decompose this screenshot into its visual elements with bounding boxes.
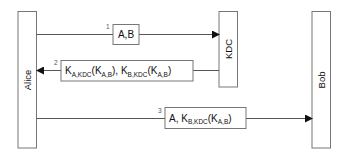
message-1: 1 A,B	[37, 23, 220, 45]
message-3: 3 A, KB,KDC(KA,B)	[37, 107, 313, 129]
step-number-1: 1	[106, 23, 110, 30]
sequence-diagram: Alice KDC Bob 1 A,B 2 KA,KDC(KA,B), KB,K…	[0, 0, 350, 156]
actor-bob: Bob	[312, 12, 331, 149]
step-number-3: 3	[158, 107, 162, 114]
actor-bob-label: Bob	[316, 72, 327, 89]
actor-alice: Alice	[18, 12, 37, 149]
message-2: 2 KA,KDC(KA,B), KB,KDC(KA,B)	[37, 59, 219, 81]
step-number-2: 2	[54, 59, 58, 66]
message-1-label: A,B	[118, 29, 134, 40]
actor-alice-label: Alice	[22, 70, 33, 91]
actor-kdc: KDC	[219, 12, 238, 88]
actor-kdc-label: KDC	[223, 39, 234, 59]
